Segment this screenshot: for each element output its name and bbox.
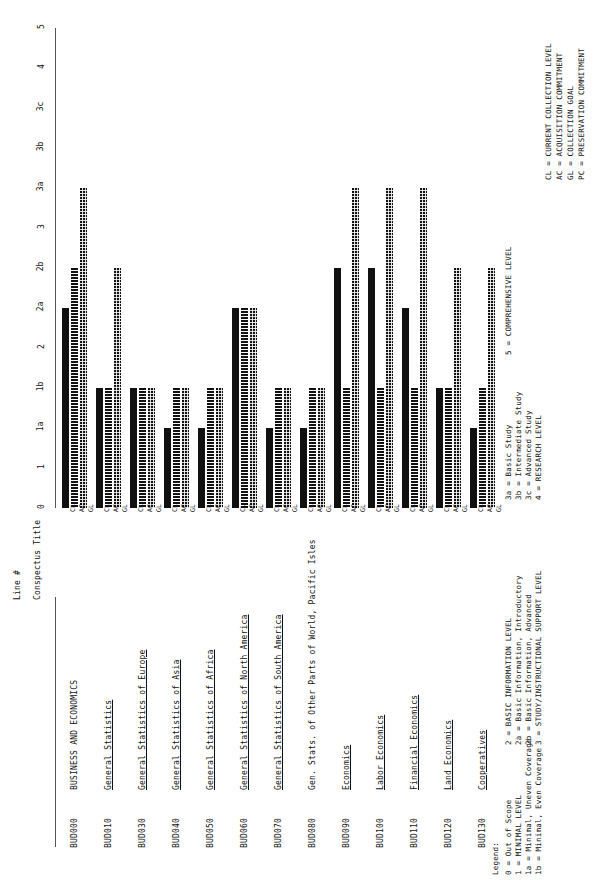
legend-col2-item-0: 2 = BASIC INFORMATION LEVEL	[505, 618, 513, 745]
bar-BUD030-CL	[130, 388, 137, 508]
row-title-BUD040: General Statistics of Asia	[173, 660, 181, 790]
bar-BUD120-GL	[454, 268, 461, 508]
row-line-number-BUD110: BUD110	[411, 818, 419, 848]
bar-BUD000-GL	[80, 188, 87, 508]
series-label-BUD060-GL: GL	[257, 504, 265, 512]
row-line-number-BUD010: BUD010	[105, 818, 113, 848]
bar-BUD130-AC	[479, 388, 486, 508]
axis-tick-2: 2	[30, 342, 52, 351]
series-label-BUD050-GL: GL	[223, 504, 231, 512]
series-label-BUD040-GL: GL	[189, 504, 197, 512]
axis-tick-label: 2a	[36, 302, 45, 312]
series-label-BUD010-GL: GL	[121, 504, 129, 512]
legend-label: Legend:	[492, 842, 500, 875]
legend-col2-item-1: 2a = Basic Information, Introductory	[515, 575, 523, 745]
axis-tick-label: 3	[36, 224, 45, 229]
bar-BUD100-CL	[368, 268, 375, 508]
row-title-BUD130: Cooperatives	[479, 730, 487, 790]
legend-col3-item-2: 3c = Advanced Study	[525, 410, 533, 500]
row-title-BUD120: Land Economics	[445, 720, 453, 790]
bar-BUD090-AC	[343, 388, 350, 508]
series-label-BUD060-CL: CL	[239, 504, 247, 512]
legend-col5-item-0: CL = CURRENT COLLECTION LEVEL	[545, 43, 553, 180]
bar-BUD050-CL	[198, 428, 205, 508]
series-label-BUD130-CL: CL	[477, 504, 485, 512]
series-label-BUD000-GL: GL	[87, 504, 95, 512]
series-label-BUD110-CL: CL	[409, 504, 417, 512]
bar-BUD070-CL	[266, 428, 273, 508]
series-label-BUD090-CL: CL	[341, 504, 349, 512]
axis-tick-4: 4	[30, 62, 52, 71]
bar-BUD100-AC	[377, 388, 384, 508]
axis-tick-label: 5	[36, 24, 45, 29]
series-label-BUD120-GL: GL	[461, 504, 469, 512]
bar-BUD040-AC	[173, 388, 180, 508]
bar-BUD010-AC	[105, 388, 112, 508]
series-label-BUD050-CL: CL	[205, 504, 213, 512]
row-title-BUD080: Gen. Stats. of Other Parts of World, Pac…	[309, 539, 317, 790]
row-title-BUD070: General Statistics of South America	[275, 614, 283, 790]
bar-BUD090-GL	[352, 188, 359, 508]
bar-BUD060-CL	[232, 308, 239, 508]
header-conspectus-title: Conspectus Title	[34, 520, 42, 600]
row-title-BUD110: Financial Economics	[411, 695, 419, 790]
bar-BUD130-CL	[470, 428, 477, 508]
series-label-BUD100-CL: CL	[375, 504, 383, 512]
row-title-BUD050: General Statistics of Africa	[207, 650, 215, 790]
series-label-BUD080-GL: GL	[325, 504, 333, 512]
chart-plot-area	[56, 28, 576, 508]
bar-BUD080-AC	[309, 388, 316, 508]
axis-tick-label: 3a	[36, 182, 45, 192]
bar-BUD120-AC	[445, 388, 452, 508]
axis-tick-1: 1	[30, 462, 52, 471]
bar-BUD040-CL	[164, 428, 171, 508]
row-line-number-BUD040: BUD040	[173, 818, 181, 848]
legend-col5-item-2: GL = COLLECTION GOAL	[567, 86, 575, 180]
bar-BUD060-GL	[250, 308, 257, 508]
row-line-number-BUD070: BUD070	[275, 818, 283, 848]
series-label-BUD120-AC: AC	[452, 504, 460, 512]
series-label-BUD130-GL: GL	[495, 504, 503, 512]
bar-BUD070-AC	[275, 388, 282, 508]
bar-BUD050-GL	[216, 388, 223, 508]
row-line-number-BUD050: BUD050	[207, 818, 215, 848]
bar-BUD060-AC	[241, 308, 248, 508]
series-label-BUD080-CL: CL	[307, 504, 315, 512]
series-label-BUD050-AC: AC	[214, 504, 222, 512]
axis-tick-label: 4	[36, 64, 45, 69]
bar-BUD130-GL	[488, 268, 495, 508]
axis-tick-label: 3b	[36, 142, 45, 152]
bar-BUD010-GL	[114, 268, 121, 508]
bar-BUD110-GL	[420, 188, 427, 508]
row-line-number-BUD080: BUD080	[309, 818, 317, 848]
bar-BUD110-CL	[402, 308, 409, 508]
axis-tick-0: 0	[30, 502, 52, 511]
bar-BUD070-GL	[284, 388, 291, 508]
bar-BUD030-GL	[148, 388, 155, 508]
legend-col3-item-1: 3b = Intermediate Study	[515, 392, 523, 500]
row-line-number-BUD030: BUD030	[139, 818, 147, 848]
row-title-BUD010: General Statistics	[105, 700, 113, 790]
bar-BUD030-AC	[139, 388, 146, 508]
series-label-BUD040-AC: AC	[180, 504, 188, 512]
axis-tick-3a: 3a	[30, 182, 52, 191]
conspectus-chart-sheet: 011a1b22a2b33a3b3c45 CLACGLCLACGLCLACGLC…	[0, 0, 613, 880]
series-label-BUD000-AC: AC	[78, 504, 86, 512]
series-label-BUD090-AC: AC	[350, 504, 358, 512]
legend-col1-item-1: 1 = MINIMAL LEVEL	[515, 795, 523, 875]
bar-BUD110-AC	[411, 388, 418, 508]
series-label-BUD090-GL: GL	[359, 504, 367, 512]
legend-col1-item-0: 0 = Out of Scope	[505, 800, 513, 875]
series-label-BUD120-CL: CL	[443, 504, 451, 512]
bar-BUD080-CL	[300, 428, 307, 508]
series-label-BUD080-AC: AC	[316, 504, 324, 512]
legend-col4-item-0: 5 = COMPREHENSIVE LEVEL	[505, 247, 513, 355]
bar-BUD040-GL	[182, 388, 189, 508]
axis-tick-label: 2	[36, 344, 45, 349]
series-label-BUD070-AC: AC	[282, 504, 290, 512]
bar-BUD050-AC	[207, 388, 214, 508]
series-label-BUD130-AC: AC	[486, 504, 494, 512]
legend-col1-item-3: 1b = Minimal, Even Coverage	[535, 748, 543, 875]
table-header-rule	[55, 597, 56, 847]
legend-col1-item-2: 1a = Minimal, Uneven Coverage	[525, 738, 533, 875]
